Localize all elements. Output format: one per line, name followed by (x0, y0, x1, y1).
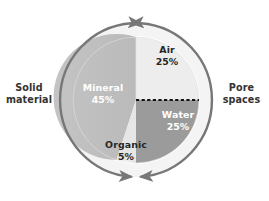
wedge-label-organic: Organic 5% (94, 139, 158, 163)
pore-spaces-label-line2: spaces (223, 94, 261, 105)
pore-spaces-label: Pore spaces (216, 82, 267, 106)
wedge-label-water-percent: 25% (149, 121, 207, 133)
wedge-label-water-name: Water (162, 109, 194, 120)
wedge-label-mineral-name: Mineral (83, 82, 123, 93)
soil-composition-figure: Solid material Pore spaces Air 25% Water… (0, 0, 269, 201)
wedge-label-mineral-percent: 45% (72, 94, 134, 106)
wedge-label-mineral: Mineral 45% (72, 82, 134, 106)
wedge-label-air-name: Air (159, 44, 174, 55)
figure-caption (8, 193, 261, 201)
wedge-label-air: Air 25% (138, 44, 196, 68)
wedge-label-air-percent: 25% (138, 56, 196, 68)
solid-material-label-line1: Solid (15, 82, 42, 93)
solid-material-label: Solid material (2, 82, 56, 106)
wedge-label-organic-percent: 5% (94, 151, 158, 163)
wedge-label-organic-name: Organic (105, 139, 147, 150)
wedge-label-water: Water 25% (149, 109, 207, 133)
pore-spaces-label-line1: Pore (229, 82, 254, 93)
solid-material-label-line2: material (6, 94, 52, 105)
